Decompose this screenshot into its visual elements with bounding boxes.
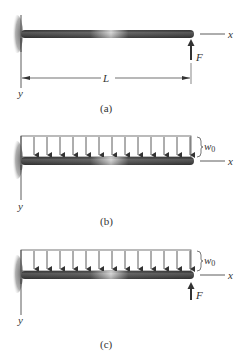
- y-axis-label: y: [17, 200, 23, 212]
- load-label: w0: [204, 254, 215, 268]
- distributed-load-box: [21, 250, 191, 271]
- y-axis-label: y: [17, 314, 23, 326]
- distributed-load-box: [21, 136, 191, 157]
- load-arrows: [34, 137, 190, 155]
- caption-c: (c): [100, 338, 113, 351]
- figure-c: w0 x F y (c): [11, 250, 233, 351]
- x-axis-label: x: [227, 155, 233, 167]
- caption-a: (a): [100, 102, 113, 115]
- x-axis-label: x: [227, 28, 233, 40]
- caption-b: (b): [100, 215, 113, 228]
- load-brace: [197, 251, 203, 271]
- figure-a: x y F L (a): [11, 15, 233, 115]
- load-arrows: [34, 251, 190, 269]
- force-label: F: [195, 289, 203, 301]
- force-label: F: [195, 51, 203, 63]
- load-brace: [197, 137, 203, 157]
- cantilever-beam-diagrams: x y F L (a) w0: [0, 0, 247, 356]
- x-axis-label: x: [227, 269, 233, 281]
- figure-b: w0 x y (b): [11, 136, 233, 228]
- load-label: w0: [204, 140, 215, 154]
- y-axis-label: y: [17, 87, 23, 99]
- length-label: L: [102, 72, 109, 84]
